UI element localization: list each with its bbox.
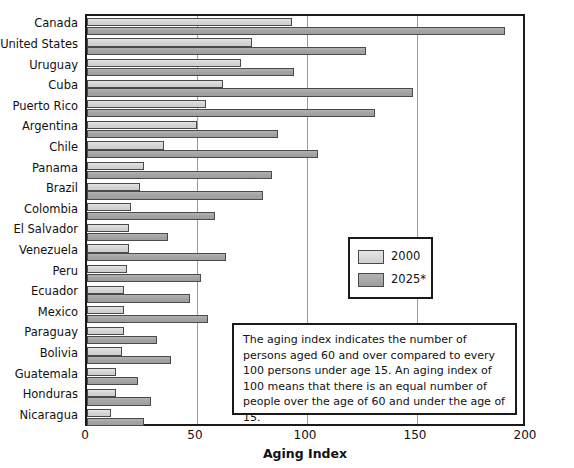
category-label-argentina: Argentina [22, 121, 78, 133]
annotation-box: The aging index indicates the number of … [232, 323, 517, 415]
bar-cuba-2000 [87, 80, 223, 88]
bar-brazil-2025 [87, 191, 263, 199]
bar-el-salvador-2025 [87, 233, 168, 241]
bar-mexico-2025 [87, 315, 208, 323]
bar-uruguay-2000 [87, 59, 241, 67]
legend-swatch-2025 [358, 273, 384, 287]
bar-row [87, 243, 523, 264]
annotation-text: The aging index indicates the number of … [243, 332, 506, 426]
bar-row [87, 222, 523, 243]
bar-paraguay-2025 [87, 336, 157, 344]
bar-row [87, 201, 523, 222]
x-tick-label-150: 150 [404, 428, 427, 442]
category-label-united-states: United States [0, 39, 78, 51]
category-axis-labels: CanadaUnited StatesUruguayCubaPuerto Ric… [0, 14, 82, 426]
bar-row [87, 263, 523, 284]
bar-honduras-2000 [87, 389, 116, 397]
category-label-nicaragua: Nicaragua [19, 410, 78, 422]
bar-row [87, 57, 523, 78]
category-label-el-salvador: El Salvador [13, 224, 78, 236]
category-label-honduras: Honduras [23, 389, 78, 401]
bar-row [87, 37, 523, 58]
bar-peru-2000 [87, 265, 127, 273]
category-label-puerto-rico: Puerto Rico [12, 101, 78, 113]
category-label-mexico: Mexico [38, 307, 78, 319]
bar-brazil-2000 [87, 183, 140, 191]
category-label-peru: Peru [52, 266, 78, 278]
bar-honduras-2025 [87, 397, 151, 405]
bar-el-salvador-2000 [87, 224, 129, 232]
bar-colombia-2000 [87, 203, 131, 211]
category-label-paraguay: Paraguay [24, 327, 78, 339]
aging-index-bar-chart: CanadaUnited StatesUruguayCubaPuerto Ric… [0, 0, 574, 468]
bar-argentina-2025 [87, 130, 278, 138]
legend-label-2025: 2025* [391, 274, 426, 286]
category-label-guatemala: Guatemala [15, 369, 78, 381]
bar-row [87, 119, 523, 140]
bar-row [87, 140, 523, 161]
bar-paraguay-2000 [87, 327, 124, 335]
bar-uruguay-2025 [87, 68, 294, 76]
bar-ecuador-2025 [87, 294, 190, 302]
bar-venezuela-2025 [87, 253, 226, 261]
x-tick-label-200: 200 [514, 428, 537, 442]
x-tick-label-0: 0 [81, 428, 89, 442]
category-label-bolivia: Bolivia [40, 348, 78, 360]
bar-row [87, 304, 523, 325]
bar-row [87, 78, 523, 99]
bar-bolivia-2000 [87, 347, 122, 355]
category-label-colombia: Colombia [24, 204, 78, 216]
bar-venezuela-2000 [87, 244, 129, 252]
bar-united-states-2000 [87, 38, 252, 46]
bar-chile-2000 [87, 141, 164, 149]
bar-united-states-2025 [87, 47, 366, 55]
bar-guatemala-2025 [87, 377, 138, 385]
bar-argentina-2000 [87, 121, 197, 129]
bar-row [87, 160, 523, 181]
bar-nicaragua-2025 [87, 418, 144, 426]
category-label-venezuela: Venezuela [19, 245, 78, 257]
bar-ecuador-2000 [87, 286, 124, 294]
bar-row [87, 16, 523, 37]
bar-bolivia-2025 [87, 356, 171, 364]
legend-item-2025: 2025* [358, 268, 431, 291]
legend-item-2000: 2000 [358, 245, 431, 268]
category-label-chile: Chile [49, 142, 78, 154]
bar-canada-2025 [87, 27, 505, 35]
bar-row [87, 98, 523, 119]
bar-puerto-rico-2000 [87, 100, 206, 108]
bar-nicaragua-2000 [87, 409, 111, 417]
category-label-brazil: Brazil [46, 183, 78, 195]
bar-colombia-2025 [87, 212, 215, 220]
chart-legend: 2000 2025* [348, 237, 433, 299]
x-axis-title: Aging Index [85, 446, 525, 461]
legend-swatch-2000 [358, 250, 384, 264]
bar-panama-2025 [87, 171, 272, 179]
bar-chile-2025 [87, 150, 318, 158]
category-label-panama: Panama [32, 163, 78, 175]
x-tick-label-50: 50 [187, 428, 202, 442]
bar-row [87, 284, 523, 305]
legend-label-2000: 2000 [391, 251, 420, 263]
bar-row [87, 181, 523, 202]
bar-guatemala-2000 [87, 368, 116, 376]
bar-cuba-2025 [87, 88, 413, 96]
x-tick-label-100: 100 [294, 428, 317, 442]
bar-puerto-rico-2025 [87, 109, 375, 117]
x-axis: Aging Index 050100150200 [85, 426, 525, 468]
category-label-ecuador: Ecuador [31, 286, 78, 298]
bar-mexico-2000 [87, 306, 124, 314]
category-label-uruguay: Uruguay [29, 60, 78, 72]
bar-canada-2000 [87, 18, 292, 26]
category-label-canada: Canada [34, 18, 78, 30]
bar-panama-2000 [87, 162, 144, 170]
bar-peru-2025 [87, 274, 201, 282]
category-label-cuba: Cuba [48, 80, 78, 92]
